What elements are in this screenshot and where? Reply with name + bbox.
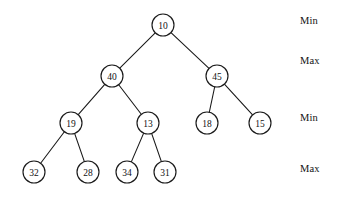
tree-node: 31 (154, 161, 176, 183)
tree-edge (171, 33, 209, 69)
tree-canvas: 1040451913181532283431 (0, 0, 337, 197)
tree-node: 10 (152, 14, 174, 36)
level-label-min-2: Min (300, 112, 318, 123)
tree-edge (224, 84, 252, 115)
node-label: 40 (107, 72, 117, 82)
level-label-max-1: Max (300, 55, 320, 66)
tree-node: 45 (206, 65, 228, 87)
tree-node: 34 (116, 161, 138, 183)
tree-edge (152, 133, 162, 161)
tree-edge (75, 133, 85, 161)
node-label: 15 (255, 119, 265, 129)
tree-edge (209, 87, 214, 112)
node-label: 28 (83, 168, 93, 178)
tree-edge (41, 132, 65, 163)
tree-edge (120, 33, 155, 68)
node-label: 19 (66, 119, 76, 129)
tree-node: 40 (101, 65, 123, 87)
tree-node: 18 (196, 112, 218, 134)
tree-node: 13 (137, 112, 159, 134)
tree-nodes-group: 1040451913181532283431 (23, 14, 271, 183)
min-max-heap-diagram: 1040451913181532283431 MinMaxMinMax (0, 0, 337, 197)
level-label-max-3: Max (300, 163, 320, 174)
tree-edge (78, 84, 105, 114)
node-label: 10 (158, 21, 168, 31)
tree-node: 15 (249, 112, 271, 134)
node-label: 13 (143, 119, 153, 129)
node-label: 45 (212, 72, 222, 82)
tree-node: 32 (23, 161, 45, 183)
tree-edge (119, 85, 142, 115)
node-label: 34 (122, 168, 132, 178)
level-label-min-0: Min (300, 15, 318, 26)
tree-edges-group (41, 33, 253, 164)
tree-edge (131, 133, 143, 162)
node-label: 32 (29, 168, 39, 178)
node-label: 31 (160, 168, 170, 178)
node-label: 18 (202, 119, 212, 129)
tree-node: 19 (60, 112, 82, 134)
tree-node: 28 (77, 161, 99, 183)
